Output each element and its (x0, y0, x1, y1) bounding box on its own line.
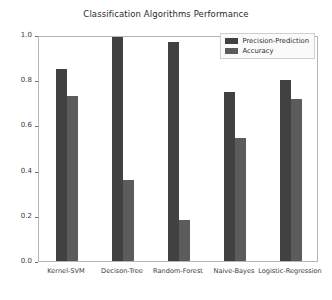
bar (123, 180, 134, 261)
y-axis-tick-mark (35, 262, 38, 263)
y-axis: 0.00.20.40.60.81.0 (0, 36, 38, 262)
bar-group (112, 37, 134, 261)
x-axis-tick-label: Decison-Tree (101, 267, 143, 275)
legend-item: Accuracy (225, 47, 309, 55)
y-axis-tick-label: 0.0 (21, 257, 32, 265)
y-axis-tick-label: 1.0 (21, 31, 32, 39)
bar (56, 69, 67, 261)
bar-groups (39, 37, 317, 261)
legend-label: Accuracy (242, 47, 273, 55)
x-axis-tick-label: Random-Forest (153, 267, 203, 275)
y-axis-tick-label: 0.8 (21, 76, 32, 84)
bar-group (56, 37, 78, 261)
chart-title: Classification Algorithms Performance (0, 9, 332, 19)
chart-legend: Precision-PredictionAccuracy (220, 33, 315, 59)
legend-swatch (225, 48, 238, 54)
bar-group (280, 37, 302, 261)
x-axis-tick-label: Kernel-SVM (47, 267, 84, 275)
chart-figure: Classification Algorithms Performance 0.… (0, 0, 332, 300)
bar (291, 99, 302, 261)
bar (235, 138, 246, 261)
y-axis-tick-label: 0.2 (21, 212, 32, 220)
bar-group (168, 37, 190, 261)
bar-group (224, 37, 246, 261)
y-axis-tick-label: 0.4 (21, 167, 32, 175)
bar (280, 80, 291, 261)
bar (112, 37, 123, 261)
legend-swatch (225, 38, 238, 44)
x-axis-tick-label: Logistic-Regression (258, 267, 322, 275)
legend-label: Precision-Prediction (242, 37, 309, 45)
bar (67, 96, 78, 261)
x-axis: Kernel-SVMDecison-TreeRandom-ForestNaive… (38, 264, 318, 284)
bar (168, 42, 179, 261)
x-axis-tick-label: Naive-Bayes (214, 267, 255, 275)
plot-area (38, 36, 318, 262)
y-axis-tick-label: 0.6 (21, 121, 32, 129)
legend-item: Precision-Prediction (225, 37, 309, 45)
bar (179, 220, 190, 261)
bar (224, 92, 235, 262)
